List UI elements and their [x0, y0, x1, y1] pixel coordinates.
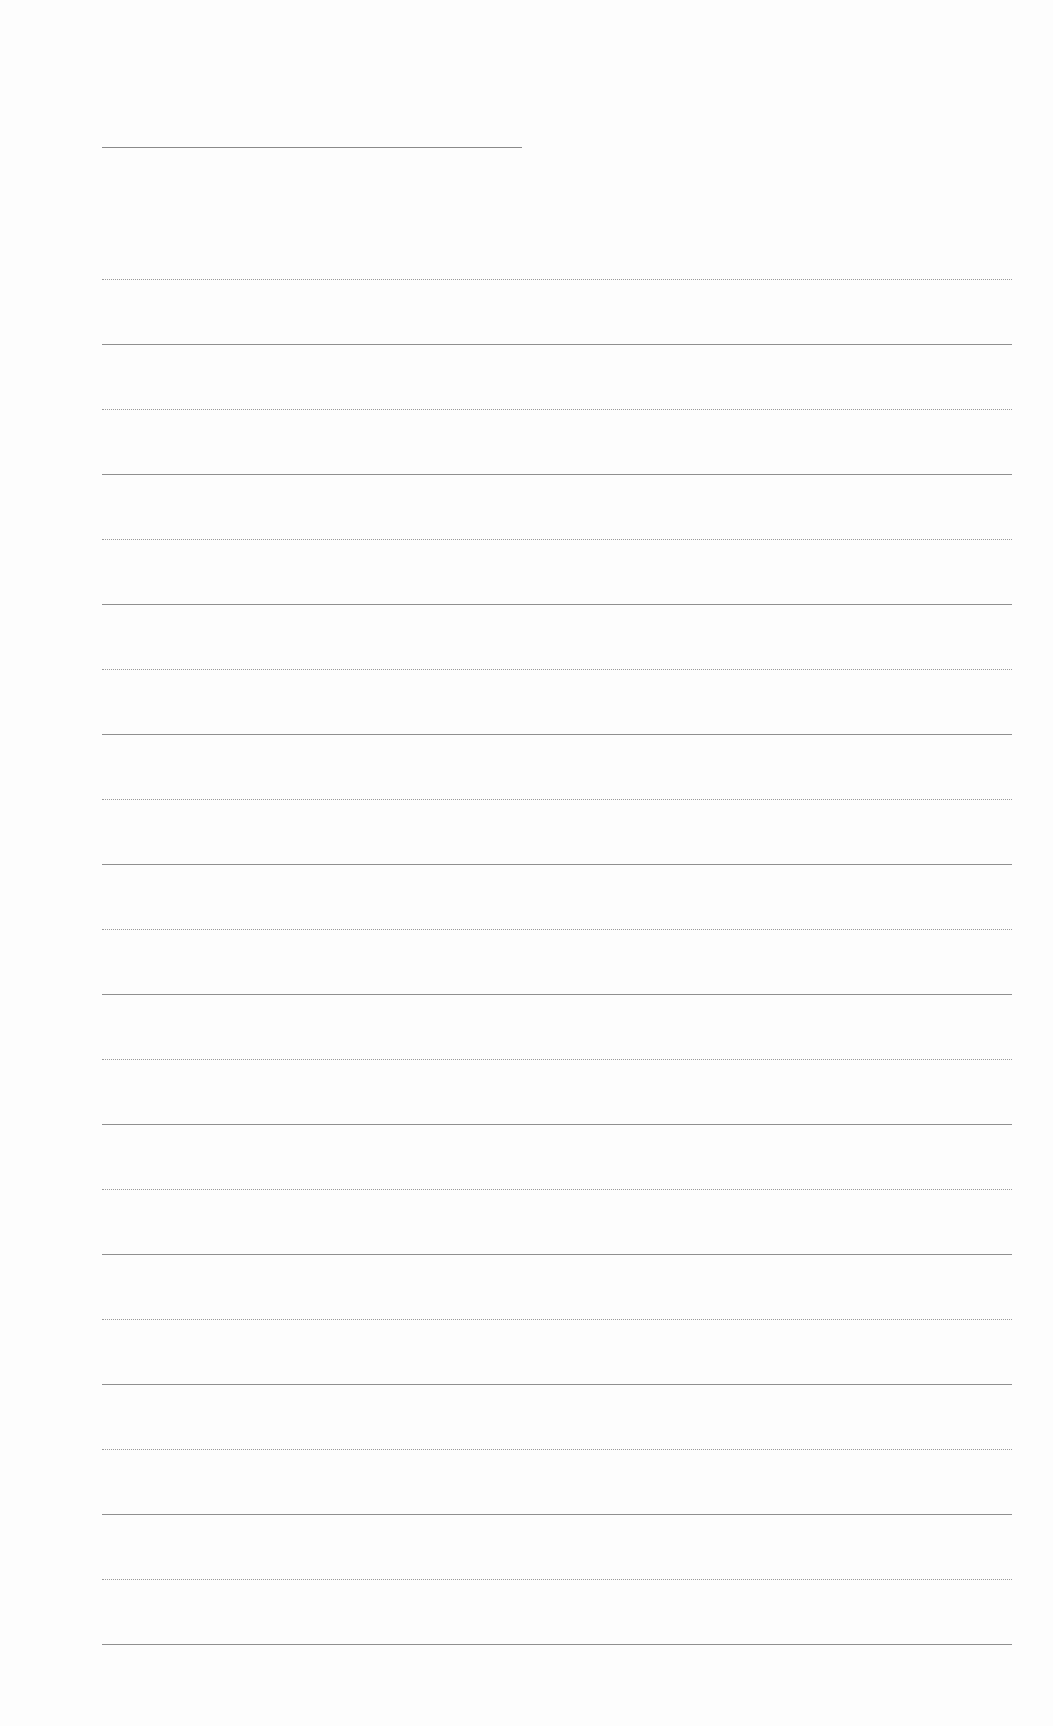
- lined-page: [0, 0, 1053, 1726]
- title-underline: [102, 147, 522, 148]
- ruled-line: [102, 1514, 1012, 1515]
- ruled-line: [102, 929, 1012, 930]
- ruled-line: [102, 669, 1012, 670]
- ruled-line: [102, 1059, 1012, 1060]
- ruled-line: [102, 1644, 1012, 1645]
- ruled-line: [102, 1319, 1012, 1320]
- ruled-line: [102, 344, 1012, 345]
- ruled-line: [102, 279, 1012, 280]
- ruled-line: [102, 734, 1012, 735]
- ruled-line: [102, 1579, 1012, 1580]
- ruled-line: [102, 474, 1012, 475]
- ruled-line: [102, 539, 1012, 540]
- ruled-line: [102, 994, 1012, 995]
- ruled-line: [102, 1384, 1012, 1385]
- ruled-line: [102, 604, 1012, 605]
- ruled-line: [102, 1254, 1012, 1255]
- ruled-line: [102, 799, 1012, 800]
- ruled-line: [102, 1449, 1012, 1450]
- ruled-line: [102, 864, 1012, 865]
- ruled-line: [102, 1124, 1012, 1125]
- ruled-line: [102, 1189, 1012, 1190]
- ruled-line: [102, 409, 1012, 410]
